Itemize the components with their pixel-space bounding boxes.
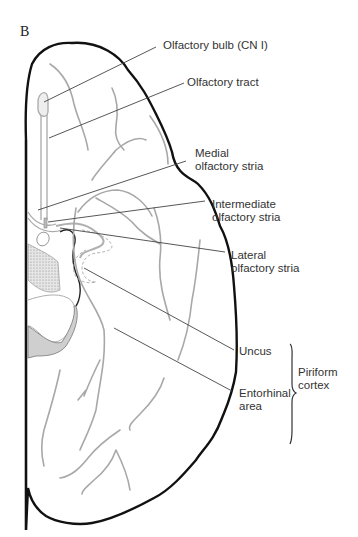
label-uncus: Uncus xyxy=(239,345,272,359)
olfactory-pathway-diagram: B Olfactory bulb (CN I) Olfactory tract … xyxy=(0,0,358,537)
panel-letter: B xyxy=(20,24,29,40)
label-olfactory-tract: Olfactory tract xyxy=(187,76,259,90)
label-olfactory-bulb: Olfactory bulb (CN I) xyxy=(163,39,268,53)
brain-ventral-view-illustration xyxy=(0,0,358,537)
piriform-brace xyxy=(290,344,296,444)
intermediate-stria-stub xyxy=(44,218,47,228)
olfactory-bulb xyxy=(38,93,48,117)
